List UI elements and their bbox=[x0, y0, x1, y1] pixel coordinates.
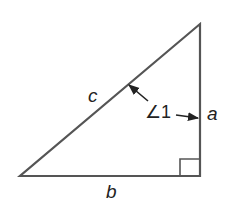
triangle-svg: c ∠1 a b bbox=[0, 0, 230, 205]
triangle-diagram: c ∠1 a b bbox=[0, 0, 230, 205]
label-base-b: b bbox=[106, 181, 117, 202]
arrow-to-side-a bbox=[176, 115, 198, 118]
right-angle-marker bbox=[180, 159, 200, 176]
arrow-to-hypotenuse bbox=[129, 85, 148, 101]
label-hypotenuse-c: c bbox=[88, 85, 98, 106]
right-triangle-shape bbox=[20, 24, 200, 176]
label-side-a: a bbox=[207, 103, 218, 124]
label-angle-1: ∠1 bbox=[145, 102, 171, 122]
